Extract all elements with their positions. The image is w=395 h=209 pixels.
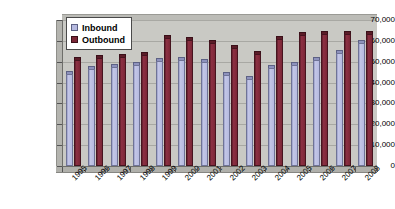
x-tick-mark xyxy=(310,167,311,172)
x-tick-mark xyxy=(130,167,131,172)
bar-face xyxy=(268,68,275,166)
bar-outbound-1995 xyxy=(74,60,81,166)
y-tick-label: 70,000 xyxy=(339,15,395,24)
bar-face xyxy=(276,39,283,166)
bar-face xyxy=(66,74,73,166)
bar-face xyxy=(223,75,230,166)
outbound-swatch-icon xyxy=(71,36,78,43)
bar-face xyxy=(366,34,373,166)
bar-face xyxy=(88,69,95,166)
inbound-swatch-icon xyxy=(71,24,78,31)
bar-face xyxy=(336,53,343,166)
x-tick-mark xyxy=(242,167,243,172)
x-tick-mark xyxy=(265,167,266,172)
bar-face xyxy=(74,60,81,166)
x-tick-mark xyxy=(197,167,198,172)
bar-face xyxy=(231,48,238,166)
x-tick-mark xyxy=(107,167,108,172)
bar-outbound-2005 xyxy=(299,35,306,166)
bar-face xyxy=(246,79,253,166)
legend-label-outbound: Outbound xyxy=(82,35,125,45)
bar-outbound-1997 xyxy=(119,57,126,167)
bar-face xyxy=(186,40,193,166)
x-tick-mark xyxy=(175,167,176,172)
bar-inbound-2005 xyxy=(291,65,298,166)
bar-outbound-2007 xyxy=(344,34,351,166)
x-tick-mark xyxy=(85,167,86,172)
bar-face xyxy=(164,38,171,166)
y-tick-mark xyxy=(57,83,62,84)
bar-face xyxy=(96,58,103,166)
bar-face xyxy=(321,34,328,166)
bar-inbound-1999 xyxy=(156,61,163,166)
x-tick-mark xyxy=(62,167,63,172)
gridline xyxy=(62,62,377,63)
bar-outbound-2003 xyxy=(254,54,261,166)
bar-inbound-1998 xyxy=(133,65,140,166)
bar-face xyxy=(119,57,126,167)
bar-inbound-2007 xyxy=(336,53,343,166)
y-axis-line xyxy=(62,20,63,167)
bar-face xyxy=(209,43,216,166)
bar-face xyxy=(133,65,140,166)
y-tick-mark xyxy=(57,145,62,146)
bar-inbound-1995 xyxy=(66,74,73,166)
bar-face xyxy=(111,67,118,166)
legend-label-inbound: Inbound xyxy=(82,23,118,33)
bar-outbound-2000 xyxy=(186,40,193,166)
bar-face xyxy=(299,35,306,166)
bar-face xyxy=(178,60,185,166)
bar-outbound-1998 xyxy=(141,55,148,166)
bar-outbound-2001 xyxy=(209,43,216,166)
bar-outbound-2006 xyxy=(321,34,328,166)
gridline xyxy=(62,124,377,125)
bar-face xyxy=(156,61,163,166)
gridline xyxy=(62,145,377,146)
bar-inbound-1996 xyxy=(88,69,95,166)
y-tick-mark xyxy=(57,103,62,104)
bar-outbound-2004 xyxy=(276,39,283,166)
bar-face xyxy=(344,34,351,166)
gridline xyxy=(62,103,377,104)
bar-inbound-2001 xyxy=(201,62,208,166)
x-tick-mark xyxy=(152,167,153,172)
y-tick-mark xyxy=(57,124,62,125)
bar-inbound-2004 xyxy=(268,68,275,166)
x-tick-mark xyxy=(332,167,333,172)
bar-face xyxy=(313,60,320,166)
bar-face xyxy=(254,54,261,166)
x-tick-mark xyxy=(287,167,288,172)
bar-face xyxy=(358,43,365,166)
bar-outbound-1996 xyxy=(96,58,103,166)
legend-item-inbound[interactable]: Inbound xyxy=(71,22,125,33)
bar-outbound-1999 xyxy=(164,38,171,166)
y-tick-mark xyxy=(57,20,62,21)
bar-inbound-2008 xyxy=(358,43,365,166)
bar-chart: 70,00060,00050,00040,00030,00020,00010,0… xyxy=(0,0,395,209)
x-tick-mark xyxy=(355,167,356,172)
bar-inbound-2002 xyxy=(223,75,230,166)
bar-outbound-2002 xyxy=(231,48,238,166)
bar-inbound-2006 xyxy=(313,60,320,166)
x-tick-mark xyxy=(377,167,378,172)
chart-legend: Inbound Outbound xyxy=(66,17,132,50)
x-tick-mark xyxy=(220,167,221,172)
bar-outbound-2008 xyxy=(366,34,373,166)
bar-face xyxy=(201,62,208,166)
bar-inbound-2000 xyxy=(178,60,185,166)
y-tick-mark xyxy=(57,41,62,42)
bar-inbound-1997 xyxy=(111,67,118,166)
bar-face xyxy=(291,65,298,166)
bar-face xyxy=(141,55,148,166)
bar-inbound-2003 xyxy=(246,79,253,166)
legend-item-outbound[interactable]: Outbound xyxy=(71,34,125,45)
gridline xyxy=(62,83,377,84)
y-tick-mark xyxy=(57,62,62,63)
